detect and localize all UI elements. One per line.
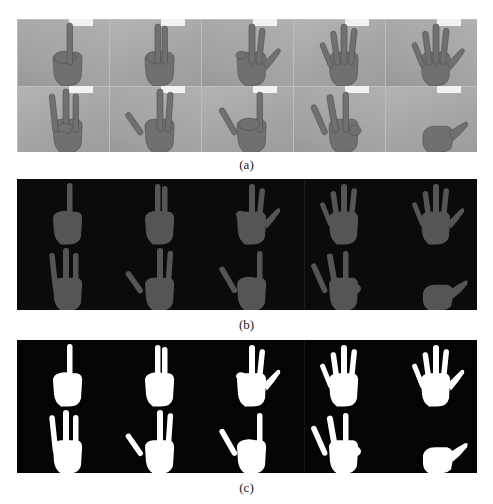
gesture-cell-five	[385, 19, 477, 86]
hand-horns-icon	[201, 407, 293, 474]
gesture-grid-b	[17, 179, 477, 310]
hand-one-icon	[17, 340, 109, 407]
panel-a-original-photos	[17, 19, 477, 152]
caption-b: (b)	[0, 318, 493, 332]
hand-three-thumb-icon	[201, 19, 293, 86]
gesture-cell-five	[385, 340, 477, 407]
image-seam	[304, 179, 305, 310]
gesture-cell-three	[17, 245, 109, 311]
gesture-cell-three-spread	[109, 407, 201, 474]
hand-five-icon	[385, 179, 477, 245]
hand-five-icon	[385, 340, 477, 407]
caption-a: (a)	[0, 158, 493, 172]
gesture-cell-horns	[201, 86, 293, 153]
gesture-cell-three	[17, 407, 109, 474]
hand-five-icon	[385, 19, 477, 86]
gesture-cell-horns	[201, 407, 293, 474]
hand-thumb-out-icon	[385, 86, 477, 153]
hand-one-icon	[17, 19, 109, 86]
hand-horns-icon	[201, 86, 293, 153]
gesture-cell-three-index-side	[293, 86, 385, 153]
gesture-cell-one	[17, 179, 109, 245]
hand-three-spread-icon	[109, 245, 201, 311]
hand-four-icon	[293, 19, 385, 86]
gesture-cell-three-spread	[109, 245, 201, 311]
image-seam	[304, 340, 305, 473]
hand-three-thumb-icon	[201, 340, 293, 407]
hand-three-index-side-icon	[293, 245, 385, 311]
caption-c: (c)	[0, 481, 493, 495]
hand-thumb-out-icon	[385, 407, 477, 474]
gesture-cell-two	[109, 340, 201, 407]
gesture-cell-thumb-out	[385, 407, 477, 474]
gesture-cell-two	[109, 19, 201, 86]
gesture-cell-five	[385, 179, 477, 245]
gesture-cell-four	[293, 340, 385, 407]
gesture-cell-thumb-out	[385, 245, 477, 311]
hand-thumb-out-icon	[385, 245, 477, 311]
hand-two-icon	[109, 179, 201, 245]
gesture-cell-one	[17, 340, 109, 407]
hand-three-icon	[17, 86, 109, 153]
hand-three-index-side-icon	[293, 407, 385, 474]
gesture-cell-three-index-side	[293, 407, 385, 474]
gesture-cell-three-thumb	[201, 340, 293, 407]
panel-c-binary-masks	[17, 340, 477, 473]
panel-b-segmented-hands	[17, 179, 477, 310]
hand-three-spread-icon	[109, 407, 201, 474]
gesture-cell-three-index-side	[293, 245, 385, 311]
hand-four-icon	[293, 179, 385, 245]
gesture-cell-four	[293, 19, 385, 86]
hand-one-icon	[17, 179, 109, 245]
gesture-cell-three-thumb	[201, 19, 293, 86]
gesture-cell-three	[17, 86, 109, 153]
hand-three-thumb-icon	[201, 179, 293, 245]
hand-two-icon	[109, 340, 201, 407]
gesture-grid-a	[17, 19, 477, 152]
hand-four-icon	[293, 340, 385, 407]
hand-three-index-side-icon	[293, 86, 385, 153]
hand-horns-icon	[201, 245, 293, 311]
gesture-cell-thumb-out	[385, 86, 477, 153]
gesture-cell-four	[293, 179, 385, 245]
gesture-grid-c	[17, 340, 477, 473]
gesture-cell-two	[109, 179, 201, 245]
hand-three-icon	[17, 407, 109, 474]
gesture-cell-one	[17, 19, 109, 86]
gesture-cell-three-spread	[109, 86, 201, 153]
gesture-cell-three-thumb	[201, 179, 293, 245]
hand-two-icon	[109, 19, 201, 86]
gesture-cell-horns	[201, 245, 293, 311]
hand-three-icon	[17, 245, 109, 311]
hand-three-spread-icon	[109, 86, 201, 153]
